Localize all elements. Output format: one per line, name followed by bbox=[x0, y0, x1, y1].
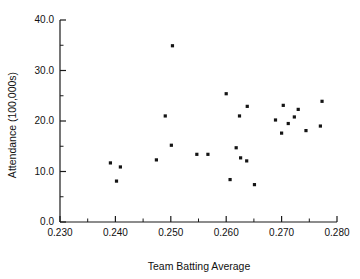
data-point bbox=[115, 179, 118, 182]
data-point bbox=[293, 115, 296, 118]
x-tick-label: 0.260 bbox=[214, 227, 239, 238]
y-tick-label: 0.0 bbox=[40, 216, 54, 227]
data-point bbox=[274, 118, 277, 121]
data-point bbox=[228, 178, 231, 181]
x-tick-label: 0.270 bbox=[269, 227, 294, 238]
y-tick-label: 40.0 bbox=[35, 14, 55, 25]
data-point bbox=[206, 153, 209, 156]
x-axis-ticks bbox=[60, 216, 337, 222]
data-point bbox=[319, 124, 322, 127]
x-axis-tick-labels: 0.2300.2400.2500.2600.2700.280 bbox=[47, 227, 349, 238]
data-point bbox=[170, 144, 173, 147]
data-point bbox=[109, 161, 112, 164]
x-axis-title: Team Batting Average bbox=[148, 260, 251, 272]
x-tick-label: 0.230 bbox=[47, 227, 72, 238]
data-point bbox=[119, 165, 122, 168]
data-point bbox=[195, 153, 198, 156]
data-point bbox=[225, 92, 228, 95]
data-point bbox=[235, 146, 238, 149]
data-point bbox=[253, 183, 256, 186]
data-point bbox=[238, 114, 241, 117]
x-tick-label: 0.250 bbox=[158, 227, 183, 238]
scatter-plot: 0.010.020.030.040.0 0.2300.2400.2500.260… bbox=[0, 0, 360, 279]
y-tick-label: 10.0 bbox=[35, 166, 55, 177]
data-point bbox=[297, 108, 300, 111]
data-point bbox=[164, 114, 167, 117]
plot-canvas: 0.010.020.030.040.0 0.2300.2400.2500.260… bbox=[0, 0, 360, 279]
y-axis-title: Attendance (100,000s) bbox=[6, 72, 18, 178]
y-tick-label: 30.0 bbox=[35, 65, 55, 76]
data-point bbox=[287, 122, 290, 125]
x-tick-label: 0.280 bbox=[324, 227, 349, 238]
data-point bbox=[246, 105, 249, 108]
y-axis-tick-labels: 0.010.020.030.040.0 bbox=[35, 14, 55, 227]
axes-group bbox=[60, 20, 337, 222]
y-tick-label: 20.0 bbox=[35, 115, 55, 126]
data-points bbox=[109, 44, 324, 186]
data-point bbox=[171, 44, 174, 47]
data-point bbox=[239, 156, 242, 159]
y-axis-ticks bbox=[60, 20, 66, 222]
data-point bbox=[155, 158, 158, 161]
data-point bbox=[245, 159, 248, 162]
x-tick-label: 0.240 bbox=[103, 227, 128, 238]
data-point bbox=[304, 129, 307, 132]
data-point bbox=[282, 104, 285, 107]
data-point bbox=[320, 100, 323, 103]
data-point bbox=[280, 132, 283, 135]
